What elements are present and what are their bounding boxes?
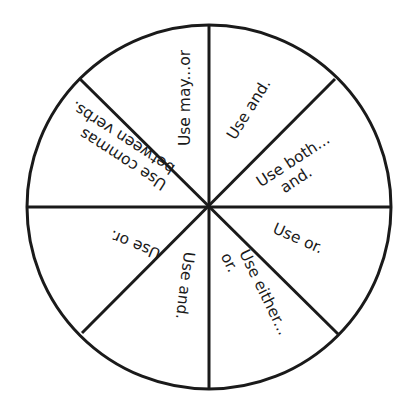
segment-label-top-left: Use may...or — [176, 49, 194, 146]
spinner-wheel: Use may...or Use and. Use both... and. U… — [0, 0, 415, 418]
